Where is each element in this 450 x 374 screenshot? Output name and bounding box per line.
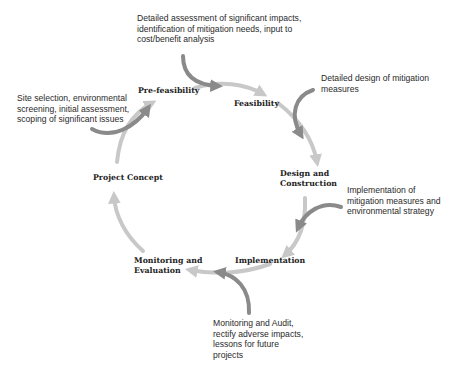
- stage-design-construction: Design and Construction: [280, 169, 337, 189]
- input-arrow-monitoring: [218, 272, 249, 313]
- note-implementation: Implementation of mitigation measures an…: [347, 185, 441, 217]
- stage-project-concept: Project Concept: [93, 173, 163, 183]
- arrow-monitoring-to-project-concept: [114, 196, 143, 251]
- note-monitoring: Monitoring and Audit, rectify adverse im…: [213, 318, 303, 360]
- stage-feasibility: Feasibility: [234, 99, 279, 109]
- stage-implementation: Implementation: [235, 256, 305, 266]
- note-feasibility: Detailed assessment of significant impac…: [137, 13, 301, 45]
- input-arrow-feasibility: [183, 56, 218, 86]
- note-design: Detailed design of mitigation measures: [321, 73, 429, 94]
- stage-pre-feasibility: Pre-feasibility: [138, 86, 199, 96]
- note-pre-feasibility: Site selection, environmental screening,…: [17, 93, 129, 125]
- stage-monitoring-evaluation: Monitoring and Evaluation: [134, 256, 202, 276]
- arrow-design-to-implementation: [285, 198, 305, 255]
